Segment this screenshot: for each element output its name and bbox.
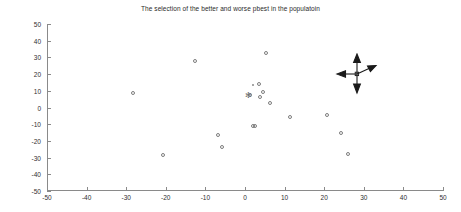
x-tick-label: -50 — [42, 194, 51, 201]
y-tick-label: 10 — [34, 87, 41, 94]
x-tick-label: -20 — [161, 194, 170, 201]
y-tick-label: -50 — [32, 188, 41, 195]
data-point-circle — [264, 51, 268, 55]
data-point-circle — [261, 90, 265, 94]
data-point-circle — [268, 101, 272, 105]
y-tick — [47, 41, 51, 42]
y-tick — [47, 57, 51, 58]
plot-axes: -50-40-30-20-1001020304050 50403020100-1… — [47, 24, 443, 191]
data-point-circle — [253, 124, 257, 128]
y-tick — [47, 191, 51, 192]
y-tick — [47, 124, 51, 125]
data-point-circle — [131, 91, 135, 95]
data-point-circle — [220, 145, 224, 149]
data-point-circle — [288, 115, 292, 119]
data-point-circle — [193, 59, 197, 63]
x-tick — [443, 187, 444, 191]
data-point-circle — [216, 133, 220, 137]
x-tick — [403, 187, 404, 191]
data-point-circle — [346, 152, 350, 156]
x-tick-label: 40 — [400, 194, 407, 201]
y-tick — [47, 158, 51, 159]
y-tick-label: 50 — [34, 21, 41, 28]
y-tick — [47, 91, 51, 92]
x-tick-label: -10 — [201, 194, 210, 201]
x-tick — [324, 187, 325, 191]
x-tick — [285, 187, 286, 191]
data-point-circle — [339, 131, 343, 135]
data-point-star: ✻ — [245, 91, 252, 98]
y-tick-label: 30 — [34, 54, 41, 61]
x-tick-label: 50 — [439, 194, 446, 201]
y-tick-label: 0 — [37, 104, 41, 111]
figure-canvas: The selection of the better and worse pb… — [0, 0, 461, 212]
y-tick-label: 40 — [34, 37, 41, 44]
data-point-circle — [257, 82, 261, 86]
x-tick — [245, 187, 246, 191]
page-title: The selection of the better and worse pb… — [0, 5, 461, 12]
y-tick-label: -10 — [32, 121, 41, 128]
x-tick-label: -30 — [121, 194, 130, 201]
x-tick — [126, 187, 127, 191]
y-tick — [47, 108, 51, 109]
x-tick — [87, 187, 88, 191]
x-tick-label: -40 — [82, 194, 91, 201]
x-tick-label: 0 — [243, 194, 247, 201]
data-point-dot — [252, 84, 254, 86]
x-tick — [364, 187, 365, 191]
x-tick-label: 20 — [321, 194, 328, 201]
data-point-circle — [161, 153, 165, 157]
y-tick-label: -20 — [32, 137, 41, 144]
x-tick-label: 10 — [281, 194, 288, 201]
y-tick — [47, 174, 51, 175]
x-tick — [166, 187, 167, 191]
y-tick-label: -40 — [32, 171, 41, 178]
y-tick — [47, 141, 51, 142]
data-point-circle — [325, 113, 329, 117]
y-tick-label: 20 — [34, 71, 41, 78]
y-tick — [47, 74, 51, 75]
data-point-circle — [258, 95, 262, 99]
y-tick — [47, 24, 51, 25]
x-tick — [205, 187, 206, 191]
four-direction-arrow-icon — [334, 53, 380, 95]
y-tick-label: -30 — [32, 154, 41, 161]
x-tick-label: 30 — [360, 194, 367, 201]
